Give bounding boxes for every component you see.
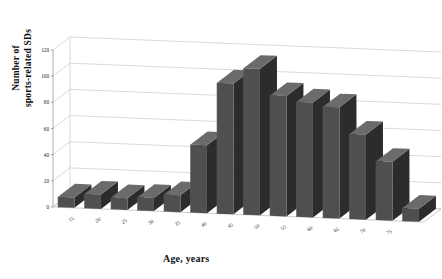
x-axis-tick-label: 75 bbox=[385, 228, 393, 236]
chart-container: Number of sports-related SDs Age, years … bbox=[0, 0, 442, 279]
x-axis-tick-label: 45 bbox=[226, 221, 234, 229]
y-axis-tick-label: 100 bbox=[41, 73, 49, 79]
x-axis-tick-label: 40 bbox=[200, 220, 208, 228]
x-axis-tick-label: 70 bbox=[359, 226, 367, 234]
y-axis-tick-label: 60 bbox=[44, 126, 50, 132]
y-axis-tick-label: 20 bbox=[44, 178, 50, 184]
plot-area: 0204060801001201520253035404550556065707… bbox=[0, 0, 442, 279]
x-axis-tick-label: 30 bbox=[147, 218, 155, 226]
x-axis-tick-label: 55 bbox=[279, 223, 287, 231]
x-axis-tick-label: 65 bbox=[332, 225, 340, 233]
x-axis-tick-label: 50 bbox=[253, 222, 261, 230]
y-axis-tick-label: 40 bbox=[44, 152, 50, 158]
y-axis-tick-label: 0 bbox=[46, 204, 49, 210]
y-axis-tick-label: 80 bbox=[44, 99, 50, 105]
chart-svg: 0204060801001201520253035404550556065707… bbox=[0, 0, 442, 279]
y-axis-tick-label: 120 bbox=[41, 47, 49, 53]
x-axis-tick-label: 20 bbox=[94, 216, 102, 224]
x-axis-tick-label: 60 bbox=[306, 224, 314, 232]
x-axis-tick-label: 15 bbox=[67, 215, 75, 223]
x-axis-tick-label: 35 bbox=[173, 219, 181, 227]
x-axis-tick-label: 25 bbox=[120, 217, 128, 225]
